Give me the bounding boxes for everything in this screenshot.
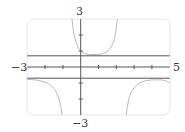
axes [27,19,169,115]
y-min-label: −3 [72,117,88,130]
lower-right-branch-curve [126,80,170,115]
lower-left-branch-curve [27,80,62,116]
upper-branch-curve [72,19,117,55]
x-max-label: 5 [173,61,180,74]
y-max-label: 3 [76,5,83,18]
x-min-label: −3 [11,61,27,74]
chart: −3 5 3 −3 [0,0,185,132]
